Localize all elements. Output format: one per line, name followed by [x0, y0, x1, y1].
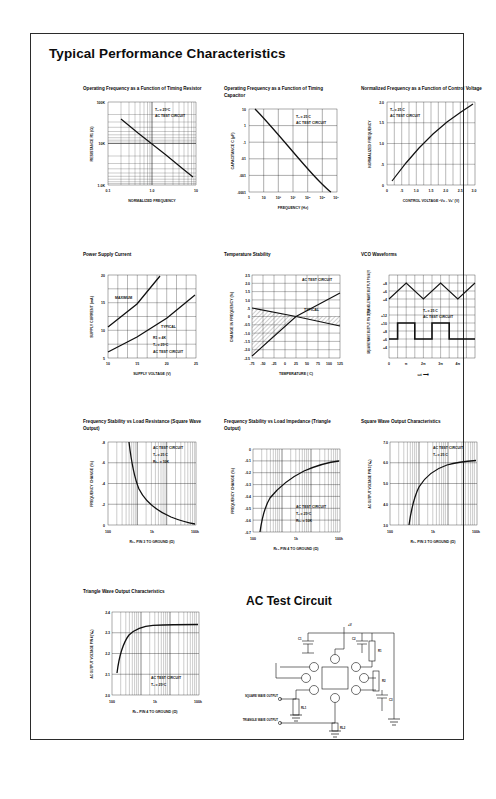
y-tick: 1.0	[379, 142, 384, 146]
x-tick: π	[405, 362, 408, 366]
y-tick: -1.0	[244, 332, 250, 336]
x-tick: 125	[337, 362, 343, 366]
x-tick: 10	[262, 196, 266, 200]
x-tick: 0.1	[106, 189, 111, 193]
chart-title: VCO Waveforms	[361, 252, 483, 259]
chart-title: Normalized Frequency as a Function of Co…	[361, 86, 483, 93]
y-tick: -2.0	[244, 348, 250, 352]
x-tick: 1.0	[414, 189, 419, 193]
chart-title: Triangle Wave Output Characteristics	[83, 589, 207, 596]
x-tick: 100	[387, 530, 393, 534]
y-tick: -0.5	[244, 323, 250, 327]
chart-title: Power Supply Current	[83, 252, 203, 259]
y-tick: +6	[383, 337, 387, 341]
y-tick: 2.4	[105, 611, 110, 615]
y-tick: +4	[383, 345, 387, 349]
chart-annotation: Tₐ = 25°C	[151, 683, 167, 687]
chart-square-wave-output-characteristics: AC TEST CIRCUIT Tₐ = 25 C 7.0 6.0 5.0 4.…	[361, 437, 485, 549]
y-tick: 2.0	[245, 282, 250, 286]
x-tick: -25	[271, 362, 276, 366]
y-axis-label: NORMALIZED FREQUENCY	[368, 120, 372, 168]
component-label-rl2: RL2	[340, 726, 346, 730]
y-tick: 1.0K	[98, 183, 106, 187]
y-axis-label: FREQUENCY CHANGE (%)	[90, 460, 94, 506]
x-tick: 1k	[431, 530, 435, 534]
y-tick: 2.5	[245, 274, 250, 278]
chart-title: Operating Frequency as a Function of Tim…	[224, 86, 344, 100]
chart-panel-triangle-wave-output: Triangle Wave Output Characteristics	[83, 589, 207, 719]
chart-temperature-stability: AC TEST CIRCUIT TYPICAL 2.5 2.0 1.5 1.0 …	[224, 270, 348, 382]
component-label-r2: R2	[382, 679, 386, 683]
x-axis-label: Rʟ₂ PIN 4 TO GROUND (Ω)	[133, 710, 179, 714]
y-axis-label: SUPPLY CURRENT (mA)	[90, 295, 94, 338]
page-title: Typical Performance Characteristics	[49, 46, 286, 61]
y-tick: 0	[103, 523, 105, 527]
x-tick: .5	[400, 189, 403, 193]
y-tick: 7.0	[383, 441, 388, 445]
y-tick: 1.5	[245, 290, 250, 294]
chart-annotation: Tₐ = 25 C	[390, 108, 405, 112]
y-tick: 6.0	[383, 461, 388, 465]
x-tick: 10	[106, 362, 110, 366]
y-tick: -0.2	[245, 471, 251, 475]
chart-triangle-wave-output-characteristics: AC TEST CIRCUIT Tₐ = 25°C 2.4 2.3 2.2 2.…	[83, 607, 207, 719]
series-label-typical: TYPICAL	[161, 325, 177, 329]
chart-annotation: Tₐ = 25 C	[423, 309, 438, 313]
y-tick: .0001	[237, 190, 246, 194]
component-label-r1: R1	[378, 649, 382, 653]
x-tick: 100k	[194, 700, 202, 704]
y-tick: -4	[102, 482, 105, 486]
y-tick: 10	[242, 108, 246, 112]
chart-annotation: AC TEST CIRCUIT	[296, 505, 327, 509]
chart-power-supply-current: MAXIMUM TYPICAL 20 15 10 5 10 15 20 25 R…	[83, 270, 203, 382]
x-tick: 1k	[153, 700, 157, 704]
x-axis-label: Rʟ₁ PIN 3 TO GROUND (Ω)	[411, 540, 457, 544]
x-tick: 10⁶	[333, 196, 339, 200]
y-tick: .5	[247, 307, 250, 311]
y-tick: 2.2	[105, 652, 110, 656]
chart-panel-operating-frequency-vs-timing-resistor: Operating Frequency as a Function of Tim…	[83, 86, 203, 209]
y-axis-label: AC OUTPUT VOLTAGE PIN 3 (Vₚₚ)	[368, 459, 372, 508]
y-tick: 5	[103, 356, 105, 360]
chart-normalized-frequency-vs-control-voltage: 2.0 1.5 1.0 .5 0 0 .5 1.0 1.5 2.0 2.5 3.…	[361, 97, 483, 209]
x-tick: 2.0	[443, 189, 448, 193]
y-tick: +12	[381, 313, 387, 317]
y-tick: 1.5	[379, 121, 384, 125]
chart-annotation: AC TEST CIRCUIT	[153, 350, 184, 354]
chart-annotation: Tₐ = 25°C	[155, 108, 171, 112]
y-tick: +6	[383, 289, 387, 293]
chart-panel-vco-waveforms: VCO Waveforms	[361, 252, 483, 382]
chart-panel-freq-stability-vs-load-resistance: Frequency Stability vs Load Resistance (…	[83, 419, 203, 549]
x-tick: 20	[165, 362, 169, 366]
y-tick: 2.0	[379, 101, 384, 105]
chart-annotation: Tₐ = 25°C	[153, 343, 169, 347]
y-axis-label: FREQUENCY CHANGE (%)	[231, 467, 235, 513]
chart-annotation: Tₐ = 25 C	[433, 453, 448, 457]
x-tick: 10²	[276, 196, 282, 200]
x-axis-label: SUPPLY VOLTAGE (V)	[133, 372, 171, 376]
x-tick: 0	[386, 189, 388, 193]
chart-title: Square Wave Output Characteristics	[361, 419, 485, 426]
y-axis-label: CAPACITANCE C (µF)	[231, 132, 235, 170]
chart-title: Operating Frequency as a Function of Tim…	[83, 86, 203, 93]
chart-panel-freq-stability-vs-load-impedance: Frequency Stability vs Load Impedance (T…	[224, 419, 348, 556]
y-tick: 0	[249, 448, 251, 452]
x-tick: 4π	[455, 362, 460, 366]
x-tick: 25	[194, 362, 198, 366]
chart-annotation: AC TEST CIRCUIT	[302, 278, 333, 282]
datasheet-page: Typical Performance Characteristics Oper…	[30, 33, 464, 740]
x-tick: -50	[260, 362, 265, 366]
triangle-wave-output-label: TRIANGLE WAVE OUTPUT	[243, 718, 279, 722]
chart-annotation: Rʟ₁ = 10K	[296, 519, 312, 523]
y-tick: .001	[239, 174, 246, 178]
y-tick: -0.5	[245, 507, 251, 511]
x-tick: 1k	[150, 530, 154, 534]
y-tick: -8	[102, 441, 105, 445]
y-axis-label: CHANGE IN FREQUENCY (%)	[230, 291, 234, 342]
y-tick: -0.6	[245, 518, 251, 522]
y-tick: 2.0	[105, 693, 110, 697]
series-label-maximum: MAXIMUM	[115, 296, 132, 300]
y-tick: 20	[101, 274, 105, 278]
chart-annotation: AC TEST CIRCUIT	[155, 114, 186, 118]
chart-panel-operating-frequency-vs-timing-capacitor: Operating Frequency as a Function of Tim…	[224, 86, 344, 216]
